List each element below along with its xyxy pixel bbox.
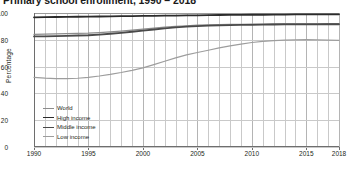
legend-item[interactable]: Middle income (43, 123, 96, 131)
x-axis-tick-label: 2005 (177, 150, 217, 157)
series-line-high-income (34, 14, 339, 17)
gridline-vertical (339, 13, 340, 147)
x-axis-tick-label: 2000 (123, 150, 163, 157)
legend-line-swatch (43, 108, 54, 109)
x-axis-tick-label: 1990 (14, 150, 54, 157)
legend-line-swatch (43, 127, 54, 128)
legend-item[interactable]: Low income (43, 133, 96, 141)
x-axis-tick-label: 2018 (319, 150, 347, 157)
y-axis-tick-label: 60 (0, 63, 8, 70)
legend-item-label: High income (57, 114, 90, 122)
y-axis-tick-label: 0 (0, 144, 8, 151)
series-line-middle-income (34, 24, 339, 36)
x-axis-tick-mark (339, 147, 340, 150)
x-axis-tick-label: 1995 (68, 150, 108, 157)
chart-figure: Primary school enrollment, 1990 – 2018 P… (0, 0, 347, 170)
legend-item-label: Low income (57, 133, 89, 141)
y-axis-tick-label: 100 (0, 10, 8, 17)
series-line-low-income (34, 40, 339, 79)
chart-legend: WorldHigh incomeMiddle incomeLow income (43, 104, 96, 141)
series-line-world (34, 24, 339, 35)
legend-item[interactable]: World (43, 104, 96, 112)
y-axis-tick-label: 80 (0, 36, 8, 43)
legend-line-swatch (43, 117, 54, 118)
y-axis-tick-label: 40 (0, 90, 8, 97)
legend-item-label: Middle income (57, 123, 96, 131)
x-axis-tick-label: 2010 (232, 150, 272, 157)
chart-title: Primary school enrollment, 1990 – 2018 (3, 0, 196, 6)
legend-item[interactable]: High income (43, 114, 96, 122)
legend-item-label: World (57, 104, 73, 112)
legend-line-swatch (43, 136, 54, 137)
y-axis-tick-label: 20 (0, 117, 8, 124)
gridline-horizontal (34, 147, 339, 148)
